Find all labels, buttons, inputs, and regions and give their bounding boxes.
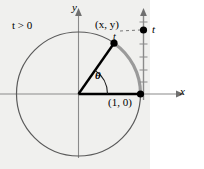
y-axis-label: y: [72, 2, 77, 13]
terminal-point-label: (x, y): [95, 19, 119, 30]
number-line-point-label: t: [152, 24, 155, 35]
y-axis: [75, 8, 82, 158]
arc-length-highlight: [114, 43, 141, 94]
angle-label: θ: [95, 70, 101, 81]
condition-label: t > 0: [12, 20, 32, 31]
initial-point-label: (1, 0): [108, 97, 132, 108]
unit-circle-figure: y x t > 0 (x, y) t t θ (1, 0): [0, 0, 204, 169]
dashed-connector: [120, 30, 140, 31]
x-axis-label: x: [180, 86, 185, 97]
number-line-point-marker: [140, 26, 147, 33]
initial-point-marker: [137, 90, 144, 97]
arc-length-label: t: [113, 32, 116, 42]
